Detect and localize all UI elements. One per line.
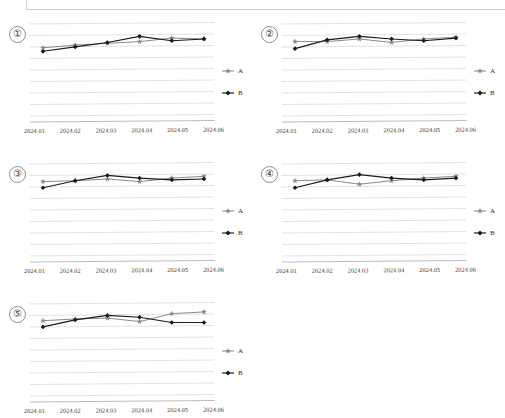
diamond-marker-icon: [474, 88, 486, 98]
x-axis-labels-1: 2024.012024.022024.032024.042024.052024.…: [24, 126, 224, 134]
star-marker-icon: [474, 66, 486, 76]
legend-row-b-4: B: [474, 222, 495, 244]
legend-label-a-2: A: [490, 67, 495, 75]
chart-panel-3: ③ 2024.012024.022024.032024.042024.05202…: [0, 148, 252, 288]
legend-label-b-2: B: [490, 89, 495, 97]
legend-4: A B: [474, 200, 495, 244]
chart-panel-4: ④ 2024.012024.022024.032024.042024.05202…: [252, 148, 504, 288]
x-axis-tick-label: 2024.02: [312, 267, 333, 274]
star-marker-icon: [222, 66, 234, 76]
star-marker-icon: [222, 346, 234, 356]
x-axis-tick-label: 2024.03: [348, 266, 369, 273]
series-lines-2: [281, 20, 466, 124]
x-axis-tick-label: 2024.06: [203, 126, 224, 133]
x-axis-tick-label: 2024.03: [96, 126, 117, 133]
x-axis-tick-label: 2024.04: [383, 266, 404, 273]
x-axis-tick-label: 2024.05: [419, 126, 440, 133]
x-axis-tick-label: 2024.04: [131, 266, 152, 273]
plot-area-2: [281, 20, 466, 124]
x-axis-tick-label: 2024.02: [60, 267, 81, 274]
x-axis-tick-label: 2024.05: [419, 266, 440, 273]
plot-area-4: [281, 160, 466, 264]
panel-index-1: ①: [9, 26, 26, 43]
x-axis-tick-label: 2024.01: [276, 127, 297, 134]
plot-area-1: [29, 20, 214, 124]
x-axis-tick-label: 2024.06: [455, 266, 476, 273]
diamond-marker-icon: [222, 368, 234, 378]
series-lines-3: [29, 160, 214, 264]
legend-label-b-1: B: [238, 89, 243, 97]
legend-row-a-2: A: [474, 60, 495, 82]
plot-area-5: [29, 300, 214, 404]
legend-row-b-3: B: [222, 222, 243, 244]
x-axis-tick-label: 2024.04: [131, 406, 152, 413]
diamond-marker-icon: [222, 228, 234, 238]
legend-3: A B: [222, 200, 243, 244]
legend-row-b-5: B: [222, 362, 243, 384]
panel-index-3: ③: [9, 166, 26, 183]
legend-label-a-3: A: [238, 207, 243, 215]
x-axis-tick-label: 2024.06: [203, 266, 224, 273]
chart-panel-2: ② 2024.012024.022024.032024.042024.05202…: [252, 8, 504, 148]
legend-label-b-3: B: [238, 229, 243, 237]
panel-index-4: ④: [261, 166, 278, 183]
chart-panel-1: ① 2024.012024.022024.032024.042024.05202…: [0, 8, 252, 148]
legend-label-b-4: B: [490, 229, 495, 237]
x-axis-tick-label: 2024.06: [203, 406, 224, 413]
legend-label-a-4: A: [490, 207, 495, 215]
legend-row-b-1: B: [222, 82, 243, 104]
panel-index-2: ②: [261, 26, 278, 43]
x-axis-tick-label: 2024.01: [24, 267, 45, 274]
legend-1: A B: [222, 60, 243, 104]
diamond-marker-icon: [222, 88, 234, 98]
x-axis-tick-label: 2024.03: [96, 406, 117, 413]
legend-row-a-5: A: [222, 340, 243, 362]
legend-2: A B: [474, 60, 495, 104]
legend-row-b-2: B: [474, 82, 495, 104]
x-axis-tick-label: 2024.01: [276, 267, 297, 274]
star-marker-icon: [474, 206, 486, 216]
x-axis-tick-label: 2024.01: [24, 407, 45, 414]
x-axis-tick-label: 2024.02: [312, 127, 333, 134]
star-marker-icon: [222, 206, 234, 216]
x-axis-tick-label: 2024.02: [60, 127, 81, 134]
legend-label-b-5: B: [238, 369, 243, 377]
x-axis-tick-label: 2024.01: [24, 127, 45, 134]
series-lines-4: [281, 160, 466, 264]
x-axis-tick-label: 2024.03: [348, 126, 369, 133]
x-axis-tick-label: 2024.05: [167, 406, 188, 413]
series-lines-5: [29, 300, 214, 404]
diamond-marker-icon: [474, 228, 486, 238]
legend-label-a-1: A: [238, 67, 243, 75]
x-axis-tick-label: 2024.04: [131, 126, 152, 133]
x-axis-tick-label: 2024.02: [60, 407, 81, 414]
x-axis-tick-label: 2024.03: [96, 266, 117, 273]
x-axis-tick-label: 2024.06: [455, 126, 476, 133]
chart-panel-5: ⑤ 2024.012024.022024.032024.042024.05202…: [0, 288, 252, 418]
x-axis-tick-label: 2024.05: [167, 126, 188, 133]
legend-label-a-5: A: [238, 347, 243, 355]
series-lines-1: [29, 20, 214, 124]
legend-5: A B: [222, 340, 243, 384]
x-axis-labels-2: 2024.012024.022024.032024.042024.052024.…: [276, 126, 476, 134]
x-axis-labels-3: 2024.012024.022024.032024.042024.052024.…: [24, 266, 224, 274]
plot-area-3: [29, 160, 214, 264]
x-axis-labels-5: 2024.012024.022024.032024.042024.052024.…: [24, 406, 224, 414]
x-axis-labels-4: 2024.012024.022024.032024.042024.052024.…: [276, 266, 476, 274]
legend-row-a-1: A: [222, 60, 243, 82]
x-axis-tick-label: 2024.05: [167, 266, 188, 273]
legend-row-a-4: A: [474, 200, 495, 222]
panel-index-5: ⑤: [9, 306, 26, 323]
x-axis-tick-label: 2024.04: [383, 126, 404, 133]
legend-row-a-3: A: [222, 200, 243, 222]
